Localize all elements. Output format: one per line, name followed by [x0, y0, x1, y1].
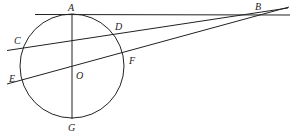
- label-d: D: [114, 21, 123, 32]
- geometry-diagram: A B C D E F O G: [0, 0, 293, 135]
- label-g: G: [68, 122, 75, 133]
- tangent-line-ab: [35, 15, 290, 16]
- label-b: B: [255, 1, 261, 12]
- label-e: E: [8, 73, 15, 84]
- secant-line-bfe: [7, 7, 289, 84]
- label-c: C: [14, 35, 21, 46]
- label-o: O: [76, 70, 83, 81]
- label-a: A: [67, 2, 75, 13]
- label-f: F: [128, 55, 136, 66]
